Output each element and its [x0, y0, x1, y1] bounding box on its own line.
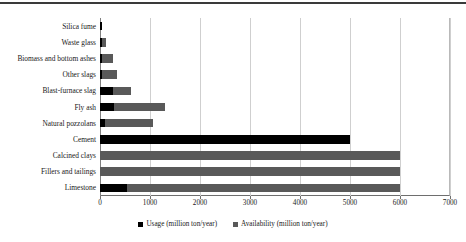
legend-label: Usage (million ton/year)	[146, 219, 217, 229]
bar-chart: Silica fumeWaste glassBiomass and bottom…	[0, 0, 466, 242]
category-label: Limestone	[65, 183, 96, 192]
legend-swatch-icon	[233, 222, 238, 227]
x-tick-label-7000: 7000	[430, 199, 466, 208]
bar-availability	[100, 184, 400, 193]
category-label: Biomass and bottom ashes	[17, 54, 96, 63]
x-tick-label-4000: 4000	[280, 199, 320, 208]
category-label: Other slags	[63, 70, 96, 79]
bar-usage	[100, 103, 114, 112]
bar-usage	[100, 22, 102, 31]
category-label: Fillers and tailings	[41, 167, 96, 176]
bar-row	[100, 184, 450, 193]
bar-row	[100, 103, 450, 112]
bar-availability	[100, 167, 400, 176]
bar-usage	[100, 87, 113, 96]
category-label: Silica fume	[62, 22, 96, 31]
x-tick-label-3000: 3000	[230, 199, 270, 208]
bar-row	[100, 38, 450, 47]
bar-availability	[100, 151, 400, 160]
bar-usage	[100, 119, 105, 128]
legend-item: Availability (million ton/year)	[233, 219, 328, 229]
x-tick-label-2000: 2000	[180, 199, 220, 208]
legend-item: Usage (million ton/year)	[138, 219, 217, 229]
bar-row	[100, 167, 450, 176]
x-tick-label-5000: 5000	[330, 199, 370, 208]
bar-row	[100, 54, 450, 63]
bar-row	[100, 135, 450, 144]
category-label: Calcined clays	[53, 151, 96, 160]
bar-availability	[100, 119, 153, 128]
bar-usage	[100, 70, 102, 79]
category-label: Cement	[73, 135, 96, 144]
bar-row	[100, 87, 450, 96]
bar-usage	[100, 184, 127, 193]
plot-area	[100, 18, 450, 196]
x-tick-label-6000: 6000	[380, 199, 420, 208]
bar-rows	[100, 18, 450, 196]
category-label: Fly ash	[74, 103, 96, 112]
bar-usage	[100, 38, 102, 47]
legend-swatch-icon	[138, 222, 143, 227]
x-tick-label-1000: 1000	[130, 199, 170, 208]
bar-row	[100, 22, 450, 31]
bar-row	[100, 119, 450, 128]
x-tick-label-0: 0	[80, 199, 120, 208]
bar-row	[100, 151, 450, 160]
bar-usage	[100, 135, 350, 144]
category-label: Natural pozzolans	[42, 119, 96, 128]
chart-legend: Usage (million ton/year)Availability (mi…	[0, 219, 466, 229]
gridline-7000	[450, 18, 451, 196]
bar-usage	[100, 54, 102, 63]
bar-row	[100, 70, 450, 79]
legend-label: Availability (million ton/year)	[241, 219, 328, 229]
category-label: Waste glass	[61, 38, 96, 47]
bar-availability	[100, 70, 117, 79]
category-label: Blast-furnace slag	[42, 86, 96, 95]
